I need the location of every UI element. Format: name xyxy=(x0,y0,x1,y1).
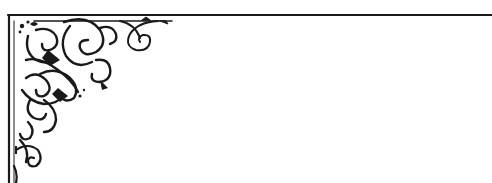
ornament-accents xyxy=(15,20,108,154)
scroll-mass xyxy=(20,19,116,162)
corner-ornament-graphic xyxy=(0,0,492,183)
scroll-flourish-top xyxy=(120,17,168,50)
ornamental-corner-frame: Decorative filigree corner ornament with… xyxy=(0,0,492,183)
frame-border xyxy=(8,15,492,183)
